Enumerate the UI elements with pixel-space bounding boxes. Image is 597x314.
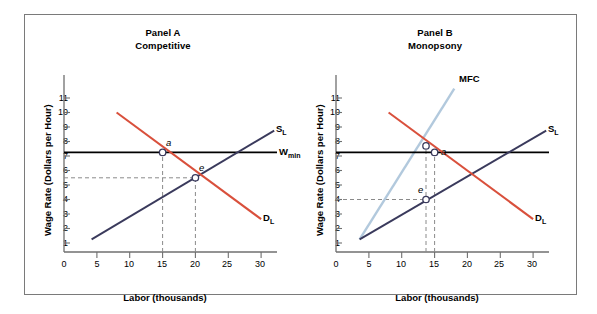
panel-b-point-mfc-marker [423,143,429,149]
panel-a-point-a-label: a [166,137,171,148]
panel-b-x-ticks [369,252,533,258]
panel-a-point-e-marker [192,175,198,181]
panel-b-demand-curve [389,113,533,220]
panel-a-y-ticks [64,98,70,243]
panel-a-plot [25,15,301,296]
panel-b-mfc-label: MFC [459,73,480,84]
panel-a-demand-curve [117,113,262,220]
panel-b-point-e-marker [423,196,429,202]
panel-b-point-e-label: e [418,184,423,195]
panel-b-mfc-curve [360,89,455,240]
panel-a-guides [64,152,195,252]
panel-b-supply-label: SL [548,123,559,134]
panel-a-point-e-label: e [199,162,204,173]
figure-root: Panel A Competitive Wage Rate (Dollars p… [0,0,597,314]
panel-a-point-a-marker [159,149,165,155]
panel-b: Panel B Monopsony Wage Rate (Dollars per… [297,15,573,296]
panel-a-demand-label: DL [263,212,274,223]
panel-a: Panel A Competitive Wage Rate (Dollars p… [25,15,301,296]
panel-b-y-ticks [336,98,342,243]
panel-b-demand-label: DL [535,212,546,223]
panel-b-plot [297,15,573,296]
panel-a-supply-label: SL [276,123,287,134]
panel-b-point-a-marker [431,149,437,155]
panel-b-supply-curve [360,131,547,240]
panel-b-point-a-label: a [441,146,446,157]
panel-a-x-ticks [97,252,261,258]
figure-frame: Panel A Competitive Wage Rate (Dollars p… [24,14,577,295]
panel-a-supply-curve [92,131,275,240]
